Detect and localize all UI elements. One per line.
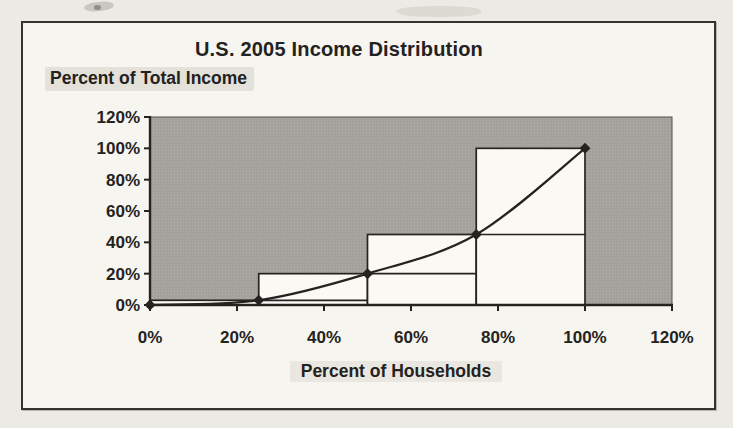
x-tick-label: 120% — [650, 328, 693, 347]
x-tick-label: 80% — [481, 328, 515, 347]
x-tick-label: 60% — [394, 328, 428, 347]
quartile-bar — [476, 148, 585, 305]
x-tick-label: 40% — [307, 328, 341, 347]
y-tick-label: 60% — [106, 202, 140, 221]
scanned-page: 0%20%40%60%80%100%120%0%20%40%60%80%100%… — [0, 0, 733, 428]
x-axis-title: Percent of Households — [290, 361, 502, 382]
x-tick-label: 100% — [563, 328, 606, 347]
y-tick-label: 40% — [106, 233, 140, 252]
chart-frame: 0%20%40%60%80%100%120%0%20%40%60%80%100%… — [21, 21, 716, 410]
scan-smudge — [396, 6, 482, 17]
y-tick-label: 120% — [97, 108, 140, 127]
scan-smudge — [84, 0, 115, 12]
y-axis-title: Percent of Total Income — [45, 67, 254, 91]
y-tick-label: 20% — [106, 265, 140, 284]
y-tick-label: 0% — [115, 296, 140, 315]
scan-smudge — [94, 5, 101, 10]
y-tick-label: 80% — [106, 171, 140, 190]
x-tick-label: 20% — [220, 328, 254, 347]
chart-title: U.S. 2005 Income Distribution — [139, 38, 539, 61]
x-tick-label: 0% — [138, 328, 163, 347]
y-tick-label: 100% — [97, 139, 140, 158]
